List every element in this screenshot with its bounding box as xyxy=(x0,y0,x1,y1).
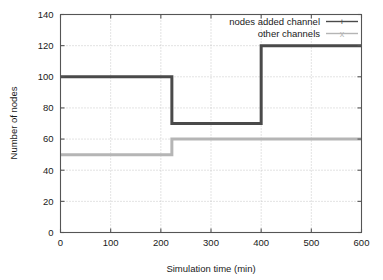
x-tick-label: 200 xyxy=(153,237,169,248)
chart-container: 020406080100120140 0100200300400500600 S… xyxy=(0,0,383,280)
legend-label-nodes-added-channel: nodes added channel xyxy=(229,16,320,27)
step-chart: 020406080100120140 0100200300400500600 S… xyxy=(0,0,383,280)
x-axis-title: Simulation time (min) xyxy=(166,263,255,274)
y-tick-label: 80 xyxy=(43,102,54,113)
y-tick-label: 140 xyxy=(38,9,54,20)
y-tick-label: 60 xyxy=(43,133,54,144)
x-tick-label: 300 xyxy=(203,237,219,248)
x-tick-label: 600 xyxy=(354,237,370,248)
y-tick-label: 0 xyxy=(48,227,53,238)
y-tick-label: 20 xyxy=(43,196,54,207)
y-tick-label: 100 xyxy=(38,71,54,82)
x-tick-label: 100 xyxy=(103,237,119,248)
y-tick-label: 40 xyxy=(43,165,54,176)
x-tick-label: 0 xyxy=(58,237,63,248)
x-tick-label: 500 xyxy=(303,237,319,248)
legend-marker-x: x xyxy=(340,29,345,39)
legend-marker-+: + xyxy=(339,17,344,27)
legend-label-other-channels: other channels xyxy=(258,28,321,39)
x-tick-label: 400 xyxy=(253,237,269,248)
y-axis-title: Number of nodes xyxy=(8,86,19,159)
y-tick-label: 120 xyxy=(38,40,54,51)
